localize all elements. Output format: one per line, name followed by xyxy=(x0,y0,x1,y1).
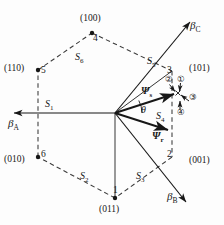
axis-label-beta-c: βC xyxy=(190,20,201,34)
state-label-110: (110) xyxy=(4,64,24,74)
sector-s2-index: 2 xyxy=(85,176,89,184)
increment-arrow-3 xyxy=(181,95,189,101)
flux-tip-marker xyxy=(176,91,181,96)
vertex-number-6: 6 xyxy=(41,150,46,160)
state-label-011: (011) xyxy=(99,205,119,215)
theta-label: θ xyxy=(141,105,146,115)
sector-s3-index: 3 xyxy=(141,176,145,184)
state-label-100: (100) xyxy=(80,14,101,24)
psi-s-subscript: s xyxy=(149,91,152,99)
increment-arrow-1 xyxy=(180,83,181,92)
psi-r-subscript: r xyxy=(160,136,163,144)
state-label-010: (010) xyxy=(4,155,25,165)
vertex-dot-6 xyxy=(36,155,40,159)
sector-s1-index: 1 xyxy=(50,104,54,112)
space-vector-hexagon-figure: (100) 4 (110) 5 (101) 3 (001) 2 (010) 6 … xyxy=(0,0,224,225)
increment-label-3: ③ xyxy=(189,93,197,102)
sector-s6-index: 6 xyxy=(80,57,84,65)
stator-flux-label: Ψs xyxy=(141,86,152,99)
sector-label-s6: S6 xyxy=(75,52,84,65)
sector-label-s5: S5 xyxy=(147,56,156,69)
sector-label-s1: S1 xyxy=(45,99,54,112)
vertex-number-4: 4 xyxy=(93,34,98,44)
increment-label-1: ① xyxy=(177,75,185,84)
rotor-flux-label: Ψr xyxy=(152,131,164,144)
vertex-dot-5 xyxy=(36,68,40,72)
hex-edge-4-3 xyxy=(92,33,172,71)
axis-label-beta-b: βB xyxy=(167,191,178,205)
vertex-number-1: 1 xyxy=(113,186,118,196)
beta-c-subscript: C xyxy=(195,25,200,34)
sector-label-s4: S4 xyxy=(156,111,165,124)
sector-s5-index: 5 xyxy=(152,61,156,69)
increment-label-4: ④ xyxy=(177,108,185,117)
figure-vector-graphics xyxy=(0,0,224,225)
hex-edge-1-6 xyxy=(38,157,115,198)
vertex-dot-1 xyxy=(113,196,117,200)
axis-label-beta-a: βA xyxy=(8,118,19,132)
state-label-001: (001) xyxy=(189,156,210,166)
beta-a-subscript: A xyxy=(13,123,18,132)
vertex-number-5: 5 xyxy=(41,66,46,76)
sector-s4-index: 4 xyxy=(161,116,165,124)
beta-b-subscript: B xyxy=(172,196,177,205)
sector-label-s3: S3 xyxy=(136,171,145,184)
axis-line-beta-b xyxy=(115,113,186,202)
state-label-101: (101) xyxy=(189,64,210,74)
sector-label-s2: S2 xyxy=(80,171,89,184)
increment-label-2: ② xyxy=(165,75,173,84)
vertex-number-2: 2 xyxy=(167,150,172,160)
